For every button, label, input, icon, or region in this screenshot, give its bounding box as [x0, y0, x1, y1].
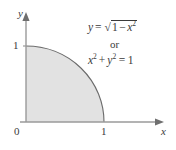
- equation-2-rhs: 1: [128, 54, 134, 66]
- radicand-constant: 1: [112, 21, 118, 33]
- x-axis-tick-label: 1: [101, 126, 107, 137]
- equation-circle: x2+y2=1: [88, 54, 133, 66]
- radical-group: √1−x2: [104, 20, 137, 33]
- equation-1-equals: =: [93, 21, 104, 33]
- equation-y-equals-sqrt: y=√1−x2: [88, 20, 137, 33]
- equation-2-plus: +: [97, 54, 108, 66]
- origin-label: 0: [14, 126, 20, 137]
- y-axis-arrowhead: [22, 12, 29, 21]
- y-axis-label: y: [18, 8, 23, 19]
- radicand-minus: −: [118, 21, 128, 33]
- x-axis-label: x: [161, 126, 166, 137]
- equation-2-equals: =: [116, 54, 128, 66]
- radicand-exponent: 2: [132, 19, 136, 28]
- radicand: 1−x2: [111, 20, 137, 33]
- y-axis-tick-label: 1: [13, 40, 19, 51]
- quarter-circle-figure: y x 0 1 1 y=√1−x2 or x2+y2=1: [0, 0, 176, 150]
- equation-connector: or: [110, 38, 119, 50]
